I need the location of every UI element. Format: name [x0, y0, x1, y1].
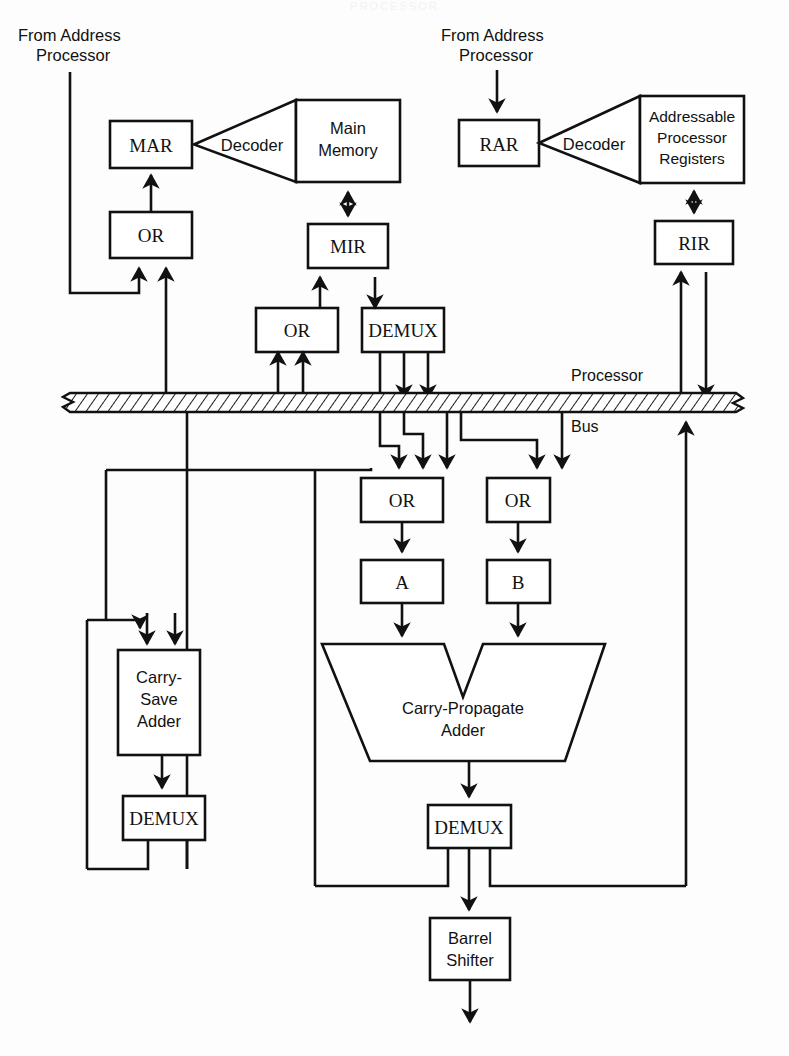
- block-registers-line3: Registers: [659, 150, 725, 167]
- block-rir-label: RIR: [678, 233, 710, 254]
- label-csa-line3: Adder: [137, 712, 182, 730]
- from-address-processor-left-line1: From Address: [18, 26, 121, 44]
- block-or-mar-label: OR: [138, 225, 165, 246]
- label-csa-line1: Carry-: [136, 668, 182, 686]
- block-or-b-label: OR: [505, 490, 532, 511]
- bus-label-line1: Processor: [571, 367, 644, 384]
- wire-left-feed-to-or: [70, 72, 139, 293]
- block-demux-csa-label: DEMUX: [129, 808, 199, 829]
- block-registers-line1: Addressable: [649, 108, 735, 125]
- block-reg-b-label: B: [512, 572, 525, 593]
- block-barrel-shifter: [430, 918, 510, 980]
- block-main-memory-line2: Memory: [318, 141, 378, 159]
- block-mir-label: MIR: [330, 236, 366, 257]
- wire-csa-feedback-in: [87, 620, 140, 628]
- processor-bus: [63, 393, 743, 412]
- faint-page-header: PROCESSOR: [0, 0, 789, 12]
- block-reg-a-label: A: [395, 572, 409, 593]
- block-main-memory-line1: Main: [330, 119, 366, 137]
- processor-block-diagram: PROCESSOR From Address Processor MAR OR …: [0, 0, 789, 1056]
- label-decoder-registers: Decoder: [563, 135, 626, 153]
- wire-left-feed-horizontal-to-or-a: [106, 468, 371, 470]
- label-csa-line2: Save: [140, 690, 178, 708]
- from-address-processor-right-line1: From Address: [441, 26, 544, 44]
- wire-demux-cpa-right-branch: [490, 848, 686, 886]
- block-or-a-label: OR: [389, 490, 416, 511]
- label-barrel-line1: Barrel: [448, 929, 492, 947]
- bus-label-line2: Bus: [571, 418, 599, 435]
- wire-csa-feedback-bottom: [87, 840, 148, 869]
- label-decoder-memory: Decoder: [221, 136, 284, 154]
- label-barrel-line2: Shifter: [446, 951, 494, 969]
- label-cpa-line1: Carry-Propagate: [402, 699, 524, 717]
- diagram-canvas: From Address Processor MAR OR Decoder Ma…: [0, 0, 789, 1056]
- wire-bus-tap-to-or-b: [461, 412, 537, 468]
- block-registers-line2: Processor: [657, 129, 727, 146]
- block-mar-label: MAR: [129, 135, 173, 156]
- label-cpa-line2: Adder: [441, 721, 486, 739]
- from-address-processor-right-line2: Processor: [459, 46, 534, 64]
- wire-bus-tap-to-or-a: [404, 412, 423, 468]
- block-demux-cpa-label: DEMUX: [434, 817, 504, 838]
- from-address-processor-left-line2: Processor: [36, 46, 111, 64]
- block-rar-label: RAR: [479, 134, 518, 155]
- block-demux-mir-label: DEMUX: [368, 320, 438, 341]
- wire-demux-cpa-left-branch: [315, 848, 448, 886]
- block-or-mir-label: OR: [284, 320, 311, 341]
